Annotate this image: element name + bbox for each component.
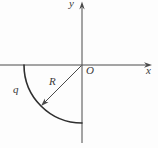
origin-label: O: [86, 65, 94, 76]
diagram-svg: [0, 0, 158, 148]
radius-label: R: [49, 76, 56, 87]
diagram-canvas: y x O R q: [0, 0, 158, 148]
charge-label: q: [13, 84, 19, 95]
x-axis-label: x: [146, 65, 151, 76]
y-axis-label: y: [69, 0, 74, 9]
